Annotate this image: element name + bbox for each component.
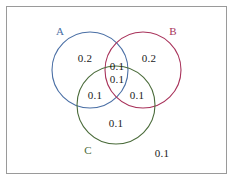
region-value-a-only: 0.2 xyxy=(78,52,92,64)
region-value-a-and-b-and-c: 0.1 xyxy=(110,73,124,85)
region-value-a-and-b: 0.1 xyxy=(110,60,124,72)
set-label-a: A xyxy=(56,25,64,37)
venn-circles-canvas xyxy=(0,0,234,182)
region-value-b-and-c: 0.1 xyxy=(130,89,144,101)
set-label-b: B xyxy=(169,25,176,37)
region-value-outside: 0.1 xyxy=(155,147,169,159)
region-value-b-only: 0.2 xyxy=(142,52,156,64)
set-label-c: C xyxy=(84,144,91,156)
region-value-a-and-c: 0.1 xyxy=(88,89,102,101)
venn-diagram-figure: A B C 0.2 0.2 0.1 0.1 0.1 0.1 0.1 0.1 xyxy=(0,0,234,182)
region-value-c-only: 0.1 xyxy=(109,117,123,129)
